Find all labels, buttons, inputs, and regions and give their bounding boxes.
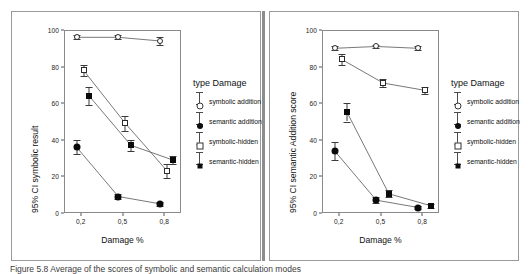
figure-caption: Figure 5.8 Average of the scores of symb… [10, 264, 522, 274]
plot-area-right: 0204060801000,20,50,895% CI semantic Add… [270, 12, 518, 260]
panel-divider [262, 11, 265, 261]
legend-item[interactable]: semantic addition [451, 111, 520, 131]
legend-title: type Damage [193, 78, 262, 88]
legend-marker-icon [451, 111, 465, 131]
legend: type Damagesymbolic additionsemantic add… [193, 78, 262, 171]
legend-item-label: semantic addition [209, 118, 262, 125]
legend-item-label: semantic-hidden [467, 158, 517, 165]
plot-area-left: 0204060801000,20,50,895% CI symbolic res… [12, 12, 260, 260]
figure-sheet: 0204060801000,20,50,895% CI symbolic res… [0, 0, 530, 274]
legend-item-label: semantic addition [467, 118, 520, 125]
legend-title: type Damage [451, 78, 520, 88]
legend-marker-icon [193, 151, 207, 171]
legend-marker-icon [193, 131, 207, 151]
legend-item[interactable]: semantic addition [193, 111, 262, 131]
legend-item-label: symbolic addition [467, 98, 519, 105]
legend-item[interactable]: symbolic addition [193, 91, 262, 111]
chart-panel-right: 0204060801000,20,50,895% CI semantic Add… [269, 11, 519, 261]
legend: type Damagesymbolic additionsemantic add… [451, 78, 520, 171]
legend-item[interactable]: symbolic addition [451, 91, 520, 111]
legend-marker-icon [193, 91, 207, 111]
legend-item-label: semantic-hidden [209, 158, 259, 165]
chart-panel-left: 0204060801000,20,50,895% CI symbolic res… [11, 11, 261, 261]
legend-marker-icon [451, 131, 465, 151]
legend-item[interactable]: symbolic-hidden [451, 131, 520, 151]
legend-marker-icon [451, 151, 465, 171]
legend-item-label: symbolic-hidden [209, 138, 258, 145]
legend-marker-icon [193, 111, 207, 131]
legend-item-label: symbolic addition [209, 98, 261, 105]
legend-item[interactable]: semantic-hidden [193, 151, 262, 171]
legend-item-label: symbolic-hidden [467, 138, 516, 145]
legend-marker-icon [451, 91, 465, 111]
legend-item[interactable]: symbolic-hidden [193, 131, 262, 151]
legend-item[interactable]: semantic-hidden [451, 151, 520, 171]
